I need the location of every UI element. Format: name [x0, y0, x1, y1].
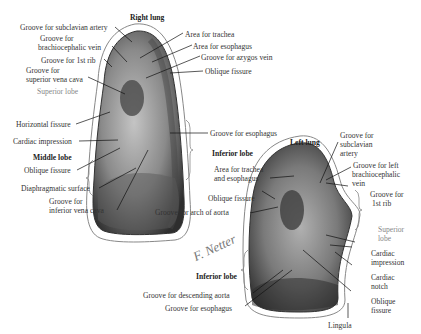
label-ivc-1: Groove for: [49, 197, 83, 206]
left-lung: [243, 136, 360, 318]
label-oblique-fissure-right-2: Oblique fissure: [24, 166, 71, 175]
label-horizontal-fissure: Horizontal fissure: [16, 120, 71, 129]
label-superior-lobe-right: Superior lobe: [37, 87, 78, 96]
label-cardiac-imp-left-2: impression: [371, 258, 404, 267]
label-brachio-left-1: Groove for left: [353, 161, 399, 170]
title-left-lung: Left lung: [290, 138, 320, 147]
label-superior-lobe-left-1: Superior: [378, 225, 404, 234]
label-oblique-fissure-left: Oblique fissure: [208, 194, 255, 203]
label-cardiac-notch-2: notch: [371, 282, 388, 291]
label-svc-1: Groove for: [26, 66, 60, 75]
title-right-lung: Right lung: [130, 13, 164, 22]
label-oblique-fissure-right: Oblique fissure: [205, 67, 252, 76]
label-brachiocephalic-1: Groove for: [40, 34, 74, 43]
label-cardiac-imp-left-1: Cardiac: [371, 249, 395, 258]
label-inferior-lobe-right: Inferior lobe: [212, 149, 253, 158]
label-inferior-lobe-left: Inferior lobe: [196, 272, 237, 281]
label-first-rib: Groove for 1st rib: [41, 56, 96, 65]
label-cardiac-notch-1: Cardiac: [371, 273, 395, 282]
label-diaphragmatic-surface: Diaphragmatic surface: [21, 184, 90, 193]
label-area-trachea: Area for trachea: [185, 30, 234, 39]
label-trachea-left-1: Area for trachea: [214, 165, 263, 174]
label-lingula: Lingula: [328, 321, 352, 330]
label-esophagus-left: Groove for esophagus: [165, 304, 232, 313]
label-brachiocephalic-2: brachiocephalic vein: [38, 43, 101, 52]
label-ivc-2: inferior vena cava: [49, 206, 104, 215]
label-rib-left-2: 1st rib: [372, 199, 391, 208]
label-subclavian-left-2: subclavian: [340, 140, 372, 149]
label-azygos-vein: Groove for azygos vein: [201, 53, 272, 62]
label-trachea-left-2: and esophagus: [214, 174, 259, 183]
label-oblique-left-2-1: Oblique: [371, 297, 395, 306]
label-subclavian-left-1: Groove for: [340, 131, 374, 140]
label-descending-aorta: Groove for descending aorta: [143, 291, 230, 300]
label-subclavian-left-3: artery: [340, 149, 358, 158]
label-cardiac-impression-right: Cardiac impression: [13, 137, 72, 146]
label-area-esophagus: Area for esophagus: [193, 42, 252, 51]
label-brachio-left-2: brachiocephalic: [352, 170, 400, 179]
label-superior-lobe-left-2: lobe: [378, 234, 391, 243]
label-brachio-left-3: vein: [352, 179, 365, 188]
label-subclavian-artery: Groove for subclavian artery: [20, 23, 108, 32]
label-groove-esophagus-right: Groove for esophagus: [210, 129, 277, 138]
label-rib-left-1: Groove for: [370, 190, 404, 199]
label-arch-aorta: Groove for arch of aorta: [155, 208, 229, 217]
label-middle-lobe: Middle lobe: [33, 153, 72, 162]
label-oblique-left-2-2: fissure: [371, 306, 391, 315]
label-svc-2: superior vena cava: [26, 75, 83, 84]
